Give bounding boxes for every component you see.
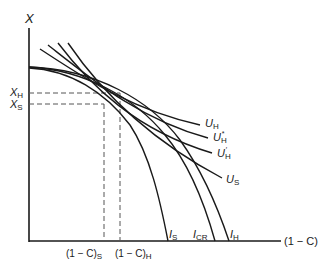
utility-u-h-star bbox=[48, 45, 208, 138]
utility-label-u-h: UH bbox=[205, 118, 219, 131]
label-sub: S bbox=[172, 233, 177, 242]
frontier-i-s bbox=[29, 68, 168, 241]
label-sub: H bbox=[233, 233, 239, 242]
frontier-i-h bbox=[29, 67, 229, 241]
label-main: U bbox=[226, 173, 234, 185]
label-sub: H bbox=[225, 152, 231, 161]
utility-u-h-prime bbox=[58, 43, 212, 153]
frontier-label-i-cr: ICR bbox=[193, 229, 208, 242]
utility-label-u-h-prime: UH′ bbox=[217, 148, 232, 161]
y-tick-x-s: XS bbox=[10, 99, 23, 112]
label-sub: CR bbox=[196, 233, 208, 242]
label-main: U bbox=[213, 131, 221, 143]
diagram-canvas bbox=[0, 0, 333, 272]
x-axis-label: (1 − C) bbox=[284, 236, 318, 247]
frontier-curves bbox=[29, 67, 229, 241]
label-sub: H bbox=[221, 136, 227, 145]
label-main: U bbox=[205, 117, 213, 129]
x-tick-sub: S bbox=[97, 252, 102, 261]
x-tick-main: (1 − C) bbox=[66, 248, 97, 259]
label-sub: S bbox=[234, 178, 239, 187]
label-sub: H bbox=[213, 122, 219, 131]
utility-label-u-s: US bbox=[226, 174, 239, 187]
utility-u-s bbox=[68, 43, 222, 178]
x-tick-sub: H bbox=[146, 252, 152, 261]
utility-curves bbox=[40, 43, 222, 178]
x-tick-h: (1 − C)H bbox=[115, 249, 152, 261]
frontier-label-i-h: IH bbox=[230, 229, 239, 242]
utility-label-u-h-star: UH* bbox=[213, 132, 229, 145]
x-tick-s: (1 − C)S bbox=[66, 249, 102, 261]
dashed-guides bbox=[29, 93, 120, 241]
y-tick-sub: S bbox=[17, 103, 22, 112]
y-axis-label: X bbox=[25, 12, 34, 25]
frontier-label-i-s: IS bbox=[169, 229, 177, 242]
label-sup: ′ bbox=[226, 146, 227, 153]
x-tick-main: (1 − C) bbox=[115, 248, 146, 259]
label-main: U bbox=[217, 147, 225, 159]
